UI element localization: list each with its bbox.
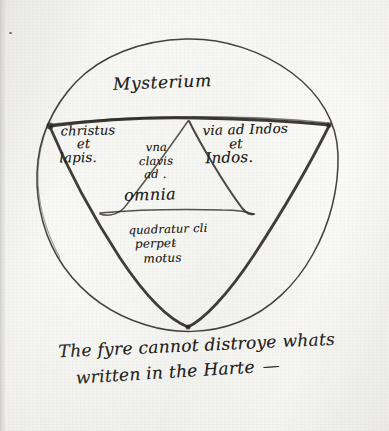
manuscript-page: Mysterium christus et lapis. via ad Indo…	[0, 0, 389, 431]
paper-vignette	[0, 0, 389, 431]
